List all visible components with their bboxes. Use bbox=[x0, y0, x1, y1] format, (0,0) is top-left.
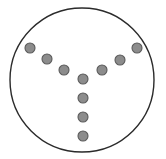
dot-right-arm-inner bbox=[97, 65, 107, 75]
dot-stem-upper bbox=[78, 93, 88, 103]
dot-right-arm-middle bbox=[115, 55, 125, 65]
dot-diagram-svg bbox=[0, 0, 166, 159]
dot-left-arm-outer bbox=[25, 43, 35, 53]
dot-stem-junction bbox=[78, 74, 88, 84]
dot-left-arm-inner bbox=[59, 65, 69, 75]
dot-stem-lower bbox=[78, 112, 88, 122]
dot-left-arm-middle bbox=[42, 54, 52, 64]
dot-right-arm-outer bbox=[132, 43, 142, 53]
dot-stem-bottom bbox=[78, 131, 88, 141]
figure-container bbox=[0, 0, 166, 159]
